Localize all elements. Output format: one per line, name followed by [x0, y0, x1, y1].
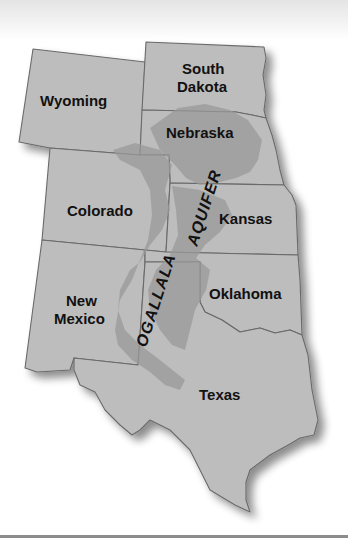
- label-oklahoma: Oklahoma: [209, 285, 282, 302]
- label-wyoming: Wyoming: [40, 92, 107, 109]
- label-new-mexico-line2: Mexico: [54, 310, 105, 327]
- label-south-dakota-line1: South: [182, 60, 225, 77]
- label-new-mexico-line1: New: [66, 292, 97, 309]
- ogallala-aquifer-map: Wyoming South Dakota Nebraska Colorado K…: [0, 0, 348, 552]
- label-kansas: Kansas: [219, 210, 272, 227]
- label-south-dakota-line2: Dakota: [177, 78, 228, 95]
- label-texas: Texas: [199, 386, 240, 403]
- label-colorado: Colorado: [67, 202, 133, 219]
- bottom-divider: [0, 535, 348, 538]
- label-nebraska: Nebraska: [166, 124, 234, 141]
